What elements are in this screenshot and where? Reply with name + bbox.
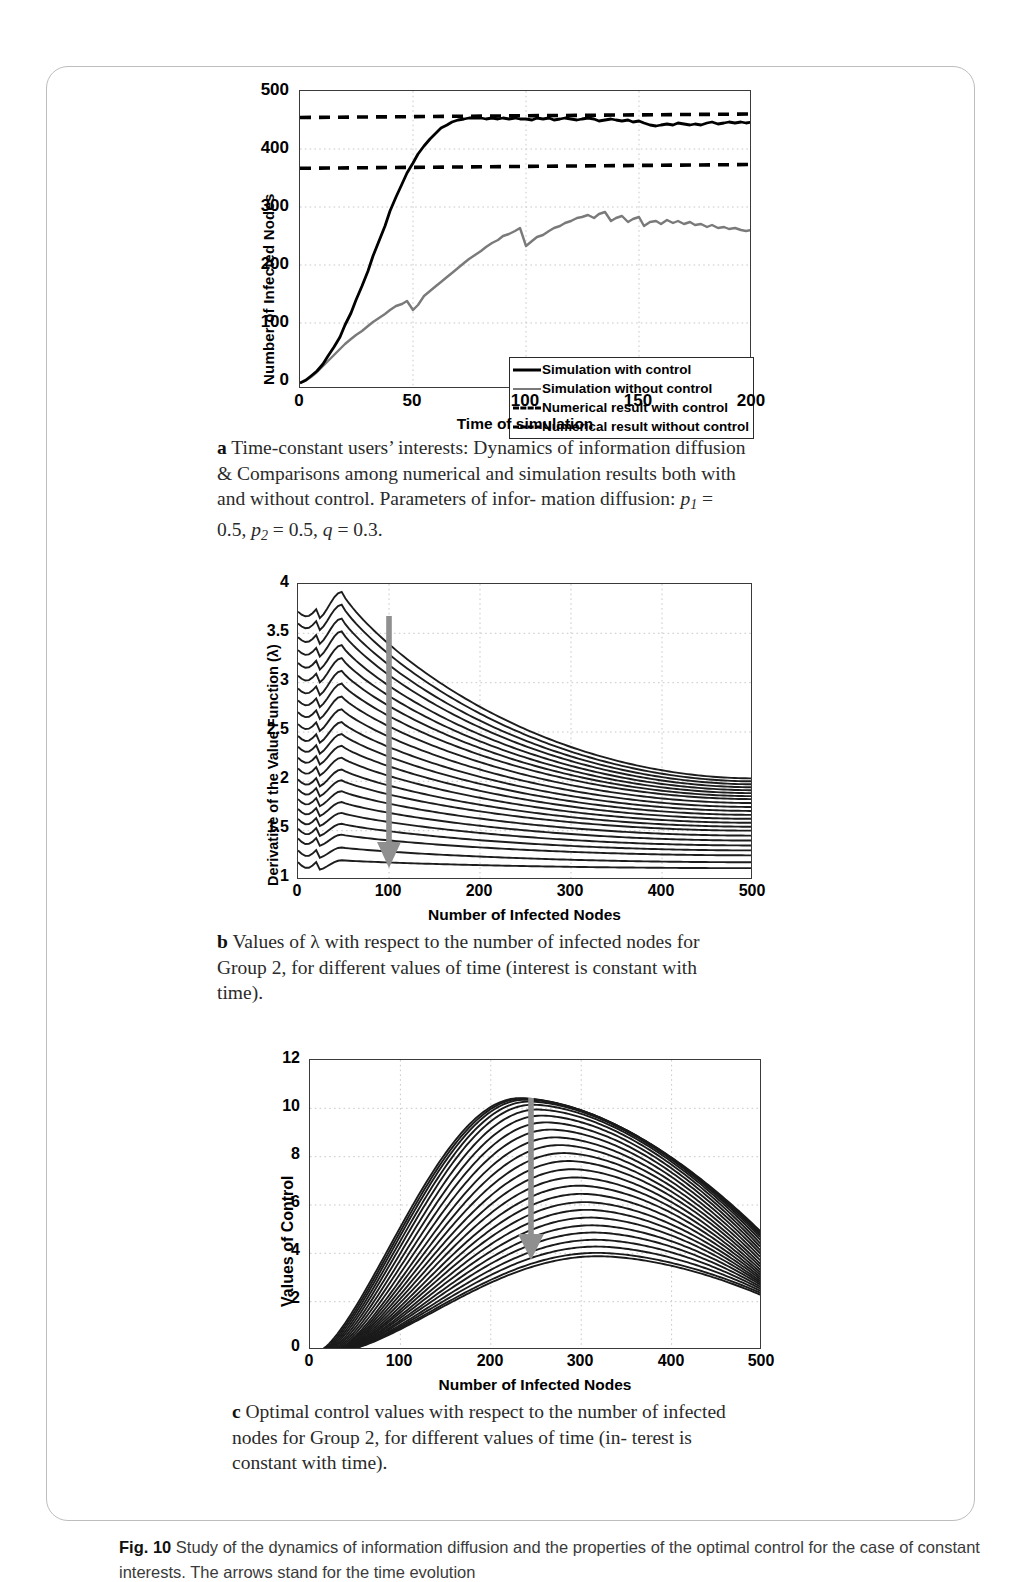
panel-b-xtick-500: 500 [732, 882, 772, 900]
panel-b-xtick-400: 400 [641, 882, 681, 900]
figure-number: Fig. 10 [119, 1538, 171, 1556]
panel-a-svg [300, 91, 751, 388]
panel-c-svg [310, 1060, 761, 1349]
panel-a-label: a [217, 437, 227, 458]
figure-caption: Fig. 10 Study of the dynamics of informa… [119, 1535, 999, 1582]
panel-a-xtick-150: 150 [618, 391, 658, 411]
panel-b-curve-2 [298, 619, 752, 785]
panel-a-plot-area [299, 90, 751, 388]
panel-a-x-axis-title: Time of simulation [299, 415, 751, 433]
panel-b-xtick-200: 200 [459, 882, 499, 900]
panel-b-ytick-1p5: 1.5 [241, 818, 289, 836]
panel-c-xtick-100: 100 [379, 1352, 419, 1370]
panel-b-label: b [217, 931, 228, 952]
panel-b-xtick-300: 300 [550, 882, 590, 900]
panel-c-ytick-4: 4 [252, 1241, 300, 1259]
panel-b-xtick-0: 0 [277, 882, 317, 900]
panel-b-x-axis-title: Number of Infected Nodes [297, 906, 752, 924]
panel-b-caption: b Values of λ with respect to the number… [217, 929, 747, 1006]
panel-b-xtick-100: 100 [368, 882, 408, 900]
panel-a-xtick-0: 0 [279, 391, 319, 411]
panel-b-curve-0 [298, 592, 752, 778]
panel-c-ytick-6: 6 [252, 1193, 300, 1211]
panel-b-plot-area [297, 583, 752, 879]
legend-line-sample-solid-black [513, 364, 541, 376]
panel-a-caption: a Time-constant users’ interests: Dynami… [217, 435, 747, 549]
panel-c-ytick-10: 10 [252, 1097, 300, 1115]
panel-a-ytick-100: 100 [237, 312, 289, 332]
panel-c-xtick-300: 300 [560, 1352, 600, 1370]
panel-a-gridlines [300, 91, 751, 388]
panel-c-xtick-0: 0 [289, 1352, 329, 1370]
panel-a-ytick-200: 200 [237, 254, 289, 274]
figure-caption-text: Study of the dynamics of information dif… [119, 1538, 980, 1581]
panel-b-svg [298, 584, 752, 879]
panel-b-ytick-2p5: 2.5 [241, 720, 289, 738]
panel-c-curve-family [321, 1098, 761, 1349]
panel-c-caption: c Optimal control values with respect to… [232, 1399, 752, 1476]
panel-a-y-axis-title: Number of Infected Nodes [260, 194, 277, 386]
panel-c-label: c [232, 1401, 241, 1422]
panel-b-ytick-3p5: 3.5 [241, 622, 289, 640]
panel-a-xtick-100: 100 [505, 391, 545, 411]
panel-c-ytick-12: 12 [252, 1049, 300, 1067]
panel-c-ytick-2: 2 [252, 1289, 300, 1307]
panel-b-curve-1 [298, 605, 752, 782]
legend-label-0: Simulation with control [542, 363, 691, 377]
panel-a-xtick-50: 50 [392, 391, 432, 411]
panel-b-ytick-4: 4 [241, 573, 289, 591]
panel-a-ytick-400: 400 [237, 138, 289, 158]
panel-c-xtick-400: 400 [651, 1352, 691, 1370]
legend-item-simulation-with-control: Simulation with control [513, 360, 750, 379]
panel-a-ytick-0: 0 [237, 370, 289, 390]
panel-a-numerical-without-control [300, 165, 751, 169]
panel-c-curve-2 [324, 1100, 761, 1349]
figure-page-card: Number of Infected Nodes 500 400 300 200… [46, 66, 975, 1521]
panel-a-ytick-300: 300 [237, 196, 289, 216]
panel-a-ytick-500: 500 [237, 80, 289, 100]
panel-c-xtick-500: 500 [741, 1352, 781, 1370]
panel-c-plot-area [309, 1059, 761, 1349]
panel-a-xtick-200: 200 [731, 391, 771, 411]
panel-c-ytick-8: 8 [252, 1145, 300, 1163]
panel-c-xtick-200: 200 [470, 1352, 510, 1370]
panel-b-ytick-3: 3 [241, 671, 289, 689]
panel-c-x-axis-title: Number of Infected Nodes [309, 1376, 761, 1394]
panel-b-ytick-2: 2 [241, 769, 289, 787]
